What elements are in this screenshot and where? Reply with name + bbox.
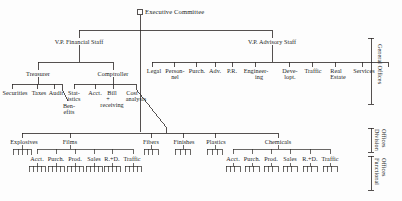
- division-chemicals: Chemicals: [265, 139, 292, 145]
- advisory-unit-legal: Legal: [147, 68, 161, 74]
- side-label-division-offices-line2: Offices: [381, 129, 387, 148]
- functional-left-purch: Purch.: [48, 156, 64, 162]
- comptroller-label: Comptroller: [98, 71, 129, 77]
- advisory-unit-realestate-line2: Estate: [330, 74, 345, 80]
- advisory-unit-development-line2: lopt.: [284, 74, 295, 80]
- advisory-unit-services: Services: [353, 68, 374, 74]
- side-label-division-offices-line1: Division: [374, 129, 380, 151]
- treasurer-unit-taxes: Taxes: [32, 90, 47, 96]
- functional-left-acct: Acct.: [30, 156, 43, 162]
- comptroller-unit-bill-line3: receiving: [100, 102, 123, 108]
- treasurer-unit-securities: Securities: [3, 90, 28, 96]
- vp-financial-label: V.P. Financial Staff: [55, 39, 104, 45]
- division-fibers: Fibers: [143, 139, 159, 145]
- division-plastics: Plastics: [206, 139, 225, 145]
- comptroller-unit-statistics-line2: istics: [67, 96, 80, 102]
- side-label-functional-offices-line2: Offices: [381, 158, 387, 177]
- division-finishes: Finishes: [173, 139, 194, 145]
- division-explosives: Explosives: [10, 139, 38, 145]
- functional-left-traffic: Traffic: [123, 156, 140, 162]
- functional-left-bottom-combs: [29, 163, 141, 172]
- functional-right-acct: Acct.: [226, 156, 239, 162]
- org-chart: Executive Committee V.P. Financial Staff…: [0, 0, 402, 201]
- division-films: Films: [63, 139, 77, 145]
- treasurer-unit-benefits-line2: efits: [64, 109, 75, 115]
- functional-right-rd: R.+D.: [302, 156, 317, 162]
- advisory-unit-traffic: Traffic: [304, 68, 321, 74]
- functional-right-purch: Purch.: [244, 156, 260, 162]
- advisory-unit-engineering-line2: ing: [255, 74, 263, 80]
- advisory-unit-personnel-line2: nel: [171, 74, 179, 80]
- functional-right-prod: Prod.: [264, 156, 278, 162]
- root-square-icon: [138, 10, 143, 15]
- side-label-general-offices: General Offices: [377, 44, 383, 84]
- advisory-unit-adv: Adv.: [209, 68, 221, 74]
- functional-right-bottom-combs: [226, 163, 337, 172]
- functional-left-prod: Prod.: [68, 156, 82, 162]
- treasurer-unit-audit: Audit: [49, 90, 63, 96]
- functional-right-traffic: Traffic: [321, 156, 338, 162]
- comptroller-unit-acct: Acct.: [88, 90, 101, 96]
- treasurer-label: Treasurer: [26, 71, 50, 77]
- side-label-functional-offices-line1: Functional: [374, 158, 380, 185]
- advisory-unit-purch: Purch.: [189, 68, 205, 74]
- vp-advisory-label: V.P. Advisory Staff: [248, 39, 296, 45]
- functional-left-rd: R.+D.: [104, 156, 119, 162]
- chart-linework: [0, 0, 402, 201]
- functional-right-sales: Sales: [283, 156, 296, 162]
- functional-left-sales: Sales: [87, 156, 100, 162]
- advisory-unit-pr: P.R.: [227, 68, 237, 74]
- comptroller-unit-cost-line2: analysis: [126, 96, 146, 102]
- root-label: Executive Committee: [145, 8, 204, 15]
